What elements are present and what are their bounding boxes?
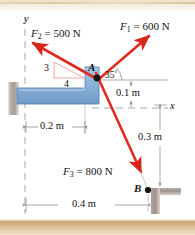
force-value-f2: = 500 N	[42, 27, 81, 39]
force-value-f3: = 800 N	[74, 165, 113, 177]
force-label-f1: F1 = 600 N	[120, 21, 170, 34]
force-label-f3: F3 = 800 N	[63, 166, 113, 179]
dimension-label-0-2m: 0.2 m	[40, 121, 64, 132]
slope-label-horizontal-4: 4	[64, 79, 69, 89]
dimension-label-0-4m: 0.4 m	[72, 199, 96, 210]
axis-x-label: x	[170, 101, 175, 112]
diagram-canvas	[0, 0, 195, 235]
angle-degree-symbol: °	[115, 69, 118, 76]
angle-label-35: 35°	[105, 70, 117, 80]
point-b-dot	[145, 187, 151, 193]
force-value-f1: = 600 N	[131, 20, 170, 32]
force-symbol-f1: F	[120, 20, 127, 32]
support-b-vertical	[151, 188, 160, 214]
angle-arc-35	[117, 68, 122, 80]
point-label-a: A	[88, 62, 95, 73]
dimension-label-0-3m: 0.3 m	[138, 132, 162, 143]
force-symbol-f3: F	[63, 165, 70, 177]
point-label-b: B	[134, 183, 141, 194]
point-a-dot	[94, 75, 101, 82]
dimension-label-0-1m: 0.1 m	[116, 88, 140, 99]
force-symbol-f2: F	[31, 27, 38, 39]
angle-value-35: 35	[105, 70, 115, 80]
axis-y-label: y	[24, 14, 29, 25]
dimension-0-3m	[154, 104, 167, 186]
slope-label-vertical-3: 3	[44, 63, 49, 73]
page-strip-bottom	[0, 219, 195, 235]
force-label-f2: F2 = 500 N	[31, 28, 81, 41]
figure-root: y x F2 = 500 N F1 = 600 N F3 = 800 N 35°…	[0, 0, 195, 235]
